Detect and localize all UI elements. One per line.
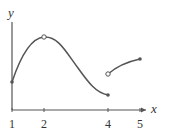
x-axis-arrow-icon [141, 108, 146, 113]
tick-label-4: 4 [105, 117, 111, 131]
y-axis-label: y [6, 5, 14, 20]
open-point-x2-peak [42, 35, 46, 39]
curve-piece-1 [12, 37, 108, 95]
filled-point-x5 [138, 57, 142, 61]
tick-label-1: 1 [9, 117, 15, 131]
filled-point-x1 [10, 80, 14, 84]
chart: 1 2 4 5 x y [0, 0, 169, 139]
x-axis-label: x [150, 101, 157, 116]
open-point-x4-high [106, 72, 110, 76]
tick-label-5: 5 [137, 117, 143, 131]
curve-piece-2 [108, 59, 140, 74]
tick-label-2: 2 [41, 117, 47, 131]
filled-point-x4-low [106, 93, 110, 97]
